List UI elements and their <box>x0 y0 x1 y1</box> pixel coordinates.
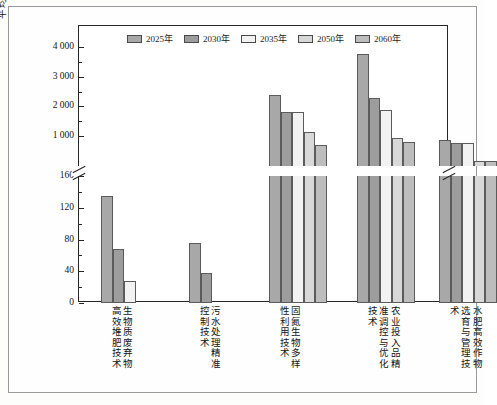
bar-upper-2035年-cat4[interactable] <box>380 110 392 166</box>
bar-lower-2060年-cat5[interactable] <box>485 176 497 303</box>
bar-upper-2025年-cat4[interactable] <box>357 54 369 166</box>
bar-upper-2025年-cat5[interactable] <box>439 140 451 166</box>
bar-lower-2035年-cat3[interactable] <box>292 176 304 303</box>
y-tick-label-2000: 2 000 <box>53 100 74 110</box>
bar-upper-2060年-cat3[interactable] <box>315 145 327 166</box>
x-axis-label-cat3: 固氮生物多样性利用技术 <box>278 306 300 369</box>
legend-item-2035年[interactable]: 2035年 <box>241 32 287 45</box>
bar-upper-2030年-cat5[interactable] <box>451 143 463 166</box>
y-tick-label-40: 40 <box>65 265 75 275</box>
legend-swatch-2060年 <box>355 35 370 43</box>
bar-2035年-cat1[interactable] <box>124 281 136 303</box>
x-axis-label-column: 生物质废弃物 <box>122 306 133 369</box>
x-axis-label-column: 固氮生物多样 <box>290 306 301 369</box>
legend-swatch-2050年 <box>298 35 313 43</box>
legend-label: 2060年 <box>374 32 401 45</box>
y-tick-label-4000: 4 000 <box>53 41 74 51</box>
legend-label: 2030年 <box>203 32 230 45</box>
bar-2030年-cat2[interactable] <box>201 273 213 303</box>
y-axis-tick-minor <box>79 255 82 256</box>
bar-upper-2035年-cat5[interactable] <box>462 143 474 166</box>
x-axis-label-cat5: 水肥高效作物选育与管理技术 <box>448 306 482 369</box>
bar-lower-2060年-cat3[interactable] <box>315 176 327 303</box>
x-axis-label-column: 选育与管理技 <box>460 306 471 369</box>
bar-lower-2050年-cat4[interactable] <box>392 176 404 303</box>
plot-area: 2025年2030年2035年2050年2060年 <box>78 25 448 302</box>
chart-legend: 2025年2030年2035年2050年2060年 <box>79 32 449 45</box>
y-axis-tick-minor <box>79 287 82 288</box>
bar-lower-2050年-cat3[interactable] <box>304 176 316 303</box>
legend-item-2030年[interactable]: 2030年 <box>184 32 230 45</box>
x-axis-label-column: 性利用技术 <box>278 306 289 369</box>
bar-upper-2025年-cat3[interactable] <box>269 95 281 166</box>
bar-2030年-cat1[interactable] <box>113 249 125 303</box>
y-axis-tick-minor <box>79 224 82 225</box>
bar-lower-2035年-cat4[interactable] <box>380 176 392 303</box>
x-axis-label-column: 农业投入品精 <box>389 306 400 369</box>
legend-label: 2025年 <box>146 32 173 45</box>
x-axis-label-column: 高效堆肥技术 <box>110 306 121 369</box>
legend-item-2060年[interactable]: 2060年 <box>355 32 401 45</box>
legend-item-2050年[interactable]: 2050年 <box>298 32 344 45</box>
bar-lower-2030年-cat4[interactable] <box>369 176 381 303</box>
legend-swatch-2035年 <box>241 35 256 43</box>
y-axis-tick-1000 <box>79 136 84 137</box>
y-tick-label-120: 120 <box>60 202 74 212</box>
y-axis-tick-3000 <box>79 77 84 78</box>
bar-lower-2060年-cat4[interactable] <box>403 176 415 303</box>
bar-upper-2060年-cat5[interactable] <box>485 161 497 166</box>
x-axis-label-cat1: 生物质废弃物高效堆肥技术 <box>110 306 132 369</box>
y-tick-label-0: 0 <box>69 297 74 307</box>
y-tick-label-80: 80 <box>65 234 75 244</box>
bar-lower-2025年-cat4[interactable] <box>357 176 369 303</box>
bar-lower-2035年-cat5[interactable] <box>462 176 474 303</box>
y-axis-tick-minor <box>79 62 82 63</box>
legend-label: 2035年 <box>260 32 287 45</box>
y-axis-tick-4000 <box>79 47 84 48</box>
bar-upper-2030年-cat4[interactable] <box>369 98 381 166</box>
x-axis-label-column: 准调控与优化 <box>378 306 389 369</box>
y-axis-tick-minor <box>79 192 82 193</box>
y-axis-tick-minor <box>79 92 82 93</box>
bar-upper-2050年-cat3[interactable] <box>304 132 316 166</box>
bar-lower-2030年-cat3[interactable] <box>281 176 293 303</box>
x-axis-label-column: 术 <box>448 306 459 369</box>
bar-upper-2035年-cat3[interactable] <box>292 112 304 166</box>
x-axis-label-column: 控制技术 <box>198 306 209 369</box>
bar-lower-2030年-cat5[interactable] <box>451 176 463 303</box>
y-axis-tick-40 <box>79 271 84 272</box>
bar-lower-2025年-cat5[interactable] <box>439 176 451 303</box>
x-axis-label-column: 污水处理精准 <box>210 306 221 369</box>
bar-2025年-cat2[interactable] <box>189 243 201 303</box>
legend-swatch-2025年 <box>127 35 142 43</box>
bar-2025年-cat1[interactable] <box>101 196 113 303</box>
legend-swatch-2030年 <box>184 35 199 43</box>
y-axis-tick-0 <box>79 303 84 304</box>
bar-lower-2025年-cat3[interactable] <box>269 176 281 303</box>
x-axis-label-column: 水肥高效作物 <box>471 306 482 369</box>
y-tick-label-1000: 1 000 <box>53 130 74 140</box>
x-axis-label-cat2: 污水处理精准控制技术 <box>198 306 220 369</box>
y-axis-tick-80 <box>79 240 84 241</box>
legend-label: 2050年 <box>317 32 344 45</box>
x-axis-label-column: 技术 <box>366 306 377 369</box>
legend-item-2025年[interactable]: 2025年 <box>127 32 173 45</box>
bar-upper-2050年-cat5[interactable] <box>474 161 486 166</box>
bar-upper-2060年-cat4[interactable] <box>403 142 415 166</box>
bar-upper-2050年-cat4[interactable] <box>392 138 404 166</box>
y-tick-label-3000: 3 000 <box>53 71 74 81</box>
y-axis-tick-2000 <box>79 106 84 107</box>
y-axis-title: 平均减排成本（元/减排tCO₂-eq） <box>0 0 8 38</box>
bar-lower-2050年-cat5[interactable] <box>474 176 486 303</box>
x-axis-label-cat4: 农业投入品精准调控与优化技术 <box>366 306 400 369</box>
y-axis-tick-minor <box>79 121 82 122</box>
bar-upper-2030年-cat3[interactable] <box>281 112 293 166</box>
y-axis-tick-120 <box>79 208 84 209</box>
